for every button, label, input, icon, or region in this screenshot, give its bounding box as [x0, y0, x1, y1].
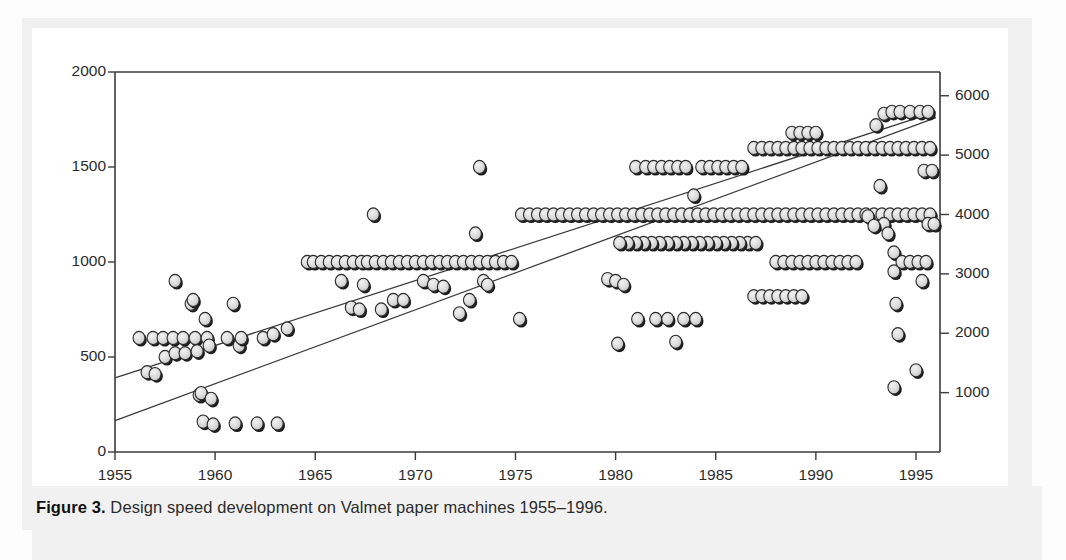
data-point [926, 164, 938, 177]
y-axis-left-tick-label: 0 [20, 442, 106, 460]
data-point [199, 312, 211, 325]
data-point [169, 274, 181, 287]
data-point [453, 307, 465, 320]
figure-panel: 0500100015002000100020003000400050006000… [0, 0, 1066, 560]
y-axis-right-tick-label: 6000 [955, 86, 1045, 104]
data-point [678, 312, 690, 325]
data-point [916, 274, 928, 287]
data-point [614, 236, 626, 249]
data-point [367, 208, 379, 221]
data-point [928, 217, 940, 230]
x-axis-tick-label: 1980 [571, 466, 661, 484]
data-point [397, 293, 409, 306]
figure-number: Figure 3. [36, 498, 106, 516]
x-axis-tick-label: 1975 [470, 466, 560, 484]
y-axis-right-tick-label: 3000 [955, 264, 1045, 282]
data-point [690, 312, 702, 325]
scatter-series [133, 105, 942, 433]
data-point [187, 293, 199, 306]
data-point [910, 364, 922, 377]
x-axis-tick-label: 1990 [771, 466, 861, 484]
x-axis-tick-label: 1960 [170, 466, 260, 484]
data-point [267, 328, 279, 341]
data-point [133, 331, 145, 344]
data-point [221, 331, 233, 344]
data-point [335, 274, 347, 287]
data-point [353, 303, 365, 316]
data-point [796, 290, 808, 303]
data-point [469, 227, 481, 240]
data-point [207, 418, 219, 431]
data-point [177, 331, 189, 344]
data-point [281, 322, 293, 335]
data-point [922, 105, 934, 118]
figure-caption: Figure 3. Design speed development on Va… [36, 498, 986, 517]
data-point [437, 280, 449, 293]
data-point [191, 345, 203, 358]
data-point [924, 141, 936, 154]
data-point [618, 278, 630, 291]
data-point [892, 328, 904, 341]
data-point [481, 278, 493, 291]
y-axis-right-tick-label: 1000 [955, 383, 1045, 401]
figure-caption-text: Design speed development on Valmet paper… [110, 498, 607, 516]
x-axis-tick-label: 1995 [871, 466, 961, 484]
data-point [612, 337, 624, 350]
data-point [890, 297, 902, 310]
data-point [874, 179, 886, 192]
data-point [473, 160, 485, 173]
x-axis-tick-label: 1970 [370, 466, 460, 484]
x-axis-tick-label: 1985 [671, 466, 761, 484]
y-axis-left-tick-label: 500 [20, 347, 106, 365]
data-point [505, 255, 517, 268]
data-point [882, 227, 894, 240]
x-axis-tick-label: 1955 [70, 466, 160, 484]
y-axis-left-tick-label: 2000 [20, 62, 106, 80]
data-point [680, 160, 692, 173]
data-point [810, 126, 822, 139]
y-axis-right-tick-label: 2000 [955, 323, 1045, 341]
x-axis-tick-label: 1965 [270, 466, 360, 484]
data-point [850, 255, 862, 268]
y-axis-right-tick-label: 5000 [955, 145, 1045, 163]
data-point [750, 236, 762, 249]
data-point [868, 219, 880, 232]
data-point [463, 293, 475, 306]
data-point [271, 417, 283, 430]
data-point [375, 303, 387, 316]
data-point [688, 189, 700, 202]
y-axis-left-tick-label: 1000 [20, 252, 106, 270]
scatter-plot: 0500100015002000100020003000400050006000… [0, 0, 1066, 560]
data-point [513, 312, 525, 325]
data-point [650, 312, 662, 325]
data-point [736, 160, 748, 173]
data-point [235, 331, 247, 344]
data-point [203, 339, 215, 352]
data-point [632, 312, 644, 325]
data-point [357, 278, 369, 291]
data-point [888, 381, 900, 394]
data-point [229, 417, 241, 430]
data-point [920, 255, 932, 268]
data-point [149, 368, 161, 381]
data-point [205, 392, 217, 405]
y-axis-left-tick-label: 1500 [20, 157, 106, 175]
data-point [179, 347, 191, 360]
data-point [670, 335, 682, 348]
data-point [870, 119, 882, 132]
data-point [251, 417, 263, 430]
y-axis-right-tick-label: 4000 [955, 205, 1045, 223]
data-point [227, 297, 239, 310]
data-point [662, 312, 674, 325]
data-point [189, 331, 201, 344]
